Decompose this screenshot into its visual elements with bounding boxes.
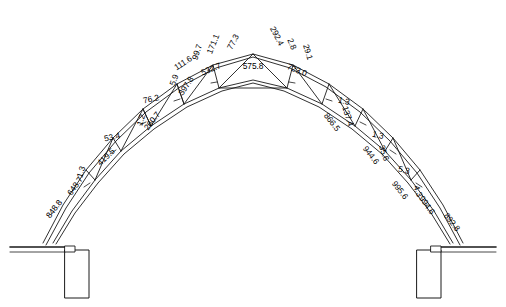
force-label: 575.8: [243, 62, 263, 70]
truss-drawing: [0, 0, 506, 307]
force-label: 1.3: [372, 130, 385, 141]
bottom-chord-inner-b: [56, 83, 450, 244]
left-support-column: [65, 250, 89, 298]
force-label: 5.3: [398, 165, 411, 176]
bottom-chord-inner: [53, 80, 453, 243]
left-bearing-plate: [65, 246, 75, 252]
right-support-column: [417, 250, 441, 298]
right-bearing-plate: [431, 246, 441, 252]
truss-diagram-canvas: 575.877.3292.4171.199.7532.7723.02.829.1…: [0, 0, 506, 307]
